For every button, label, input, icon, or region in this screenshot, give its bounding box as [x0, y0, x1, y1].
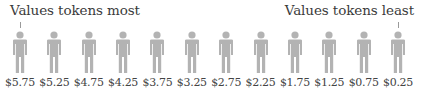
person-icon	[111, 30, 135, 74]
person-icon	[42, 30, 66, 74]
person-icon	[214, 30, 238, 74]
person-figure-2	[42, 30, 66, 74]
person-icon	[283, 30, 307, 74]
person-icon	[8, 30, 32, 74]
person-figure-9	[283, 30, 307, 74]
person-figure-11	[352, 30, 376, 74]
person-icon	[180, 30, 204, 74]
person-figure-1	[8, 30, 32, 74]
person-figure-12	[386, 30, 410, 74]
price-label: $0.25	[378, 76, 418, 89]
person-figure-3	[77, 30, 101, 74]
person-figure-7	[214, 30, 238, 74]
person-icon	[145, 30, 169, 74]
figure-row: $5.75 $5.25 $4.75 $4.25 $3.75 $3.25 $2.7…	[0, 0, 422, 92]
person-figure-6	[180, 30, 204, 74]
person-figure-4	[111, 30, 135, 74]
person-figure-8	[249, 30, 273, 74]
person-figure-10	[317, 30, 341, 74]
person-icon	[77, 30, 101, 74]
person-icon	[249, 30, 273, 74]
person-figure-5	[145, 30, 169, 74]
person-icon	[352, 30, 376, 74]
person-icon	[317, 30, 341, 74]
person-icon	[386, 30, 410, 74]
